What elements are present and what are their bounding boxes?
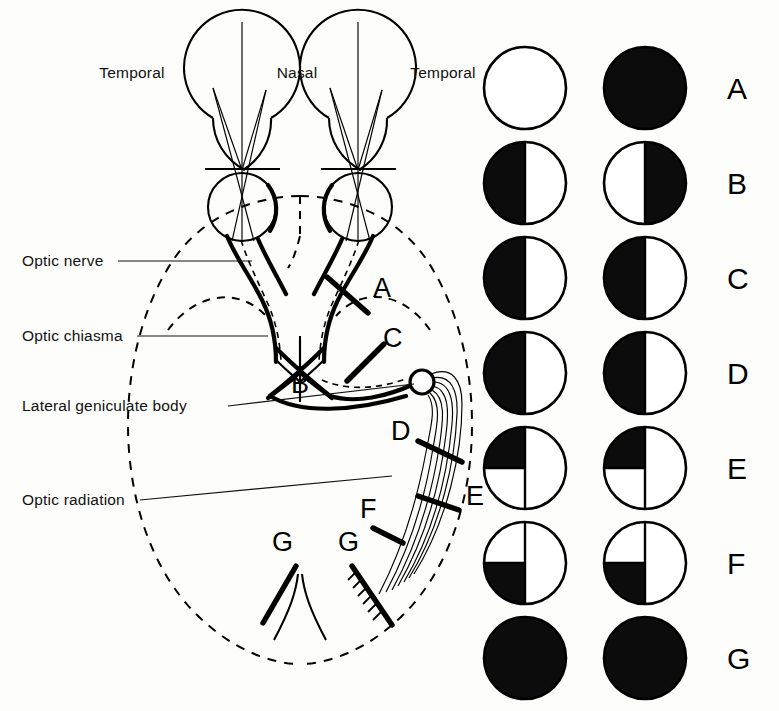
- field-chart-row: G: [484, 617, 750, 699]
- defect-fill-left-half: [484, 332, 525, 414]
- field-chart-row: C: [484, 237, 749, 319]
- field-row-letter-f: F: [727, 547, 745, 580]
- label-optic-radiation: Optic radiation: [22, 491, 125, 508]
- visual-pathway-figure: Temporal Nasal Temporal Optic nerve Opti…: [0, 0, 779, 711]
- lesion-letter-f: F: [360, 494, 377, 524]
- label-nasal: Nasal: [277, 64, 318, 81]
- field-circle-b-left: [484, 142, 566, 224]
- field-row-letter-a: A: [727, 72, 747, 105]
- label-leader-lines: [118, 261, 414, 500]
- left-visual-field-circle: [184, 10, 300, 170]
- label-optic-chiasma: Optic chiasma: [22, 327, 123, 344]
- lesion-bar-f: [373, 528, 403, 543]
- lesion-letter-e: E: [466, 481, 484, 511]
- lesion-bar-g-left: [263, 566, 296, 623]
- defect-fill-right-half: [645, 142, 686, 224]
- field-circle-c-left: [484, 237, 566, 319]
- field-chart-row: D: [484, 332, 749, 414]
- field-circle-f-left: [484, 522, 566, 604]
- lesion-letter-g-right: G: [338, 527, 359, 557]
- lesion-letter-g-left: G: [272, 527, 293, 557]
- field-circle-d-right: [604, 332, 686, 414]
- visual-field-defect-chart: ABCDEFG: [484, 47, 750, 699]
- lesion-letter-c: C: [383, 323, 403, 353]
- brain-outline: [128, 196, 472, 664]
- field-row-letter-b: B: [727, 167, 747, 200]
- label-temporal-left: Temporal: [99, 64, 164, 81]
- field-row-letter-c: C: [727, 262, 749, 295]
- defect-fill-left-half: [604, 237, 645, 319]
- field-circle-a-right: [604, 47, 686, 129]
- brainstem-notch: [274, 574, 326, 640]
- field-chart-row: B: [484, 142, 747, 224]
- defect-fill-left-half: [484, 142, 525, 224]
- lesion-letter-a: A: [373, 273, 391, 303]
- field-circle-f-right: [604, 522, 686, 604]
- defect-fill-left-half: [604, 332, 645, 414]
- defect-fill-left-half: [484, 237, 525, 319]
- field-circle-e-left: [484, 427, 566, 509]
- field-chart-row: E: [484, 427, 747, 509]
- optic-radiation-fan: [379, 372, 462, 594]
- field-circle-g-right: [604, 617, 686, 699]
- field-circle-a-left: [484, 47, 566, 129]
- leader-optic-radiation: [140, 476, 392, 500]
- field-row-letter-e: E: [727, 452, 747, 485]
- lateral-geniculate-body: [410, 370, 434, 394]
- right-visual-field-circle: [300, 10, 416, 170]
- lesion-letter-b: B: [291, 369, 309, 399]
- field-row-letter-g: G: [727, 642, 750, 675]
- field-circle-c-right: [604, 237, 686, 319]
- label-lateral-geniculate-body: Lateral geniculate body: [22, 397, 187, 414]
- diagram-canvas: Temporal Nasal Temporal Optic nerve Opti…: [0, 0, 779, 711]
- label-optic-nerve: Optic nerve: [22, 252, 103, 269]
- field-circle-b-right: [604, 142, 686, 224]
- field-row-letter-d: D: [727, 357, 749, 390]
- field-circle-d-left: [484, 332, 566, 414]
- field-circle-e-right: [604, 427, 686, 509]
- field-chart-row: F: [484, 522, 745, 604]
- lesion-letter-d: D: [391, 416, 411, 446]
- label-temporal-right: Temporal: [410, 64, 475, 81]
- lesion-bar-g-right: [348, 566, 392, 625]
- lesion-bar-c: [347, 344, 384, 381]
- field-circle-g-left: [484, 617, 566, 699]
- field-chart-row: A: [484, 47, 747, 129]
